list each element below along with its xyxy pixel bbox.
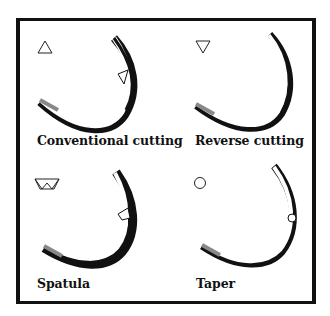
spatula-needle-icon [36, 170, 146, 280]
reverse-cutting-needle-icon [188, 28, 328, 138]
taper-label: Taper [196, 276, 235, 291]
spatula-label: Spatula [37, 276, 90, 291]
taper-needle-icon [196, 164, 306, 274]
reverse-cutting-label: Reverse cutting [195, 133, 304, 148]
conventional-cutting-label: Conventional cutting [37, 133, 183, 148]
conventional-cutting-needle-icon [30, 30, 170, 140]
